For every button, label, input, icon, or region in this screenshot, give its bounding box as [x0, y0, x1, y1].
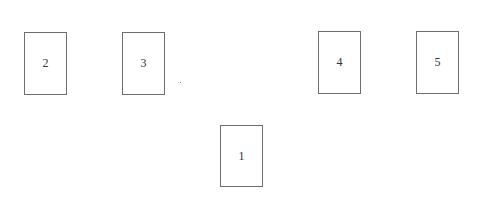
- card-label: 2: [43, 56, 49, 71]
- card-label: 1: [239, 149, 245, 164]
- card-5: 5: [416, 31, 459, 94]
- stray-dot: [180, 82, 181, 83]
- card-label: 3: [141, 56, 147, 71]
- card-label: 4: [337, 55, 343, 70]
- card-2: 2: [24, 32, 67, 95]
- card-label: 5: [435, 55, 441, 70]
- card-3: 3: [122, 32, 165, 95]
- card-4: 4: [318, 31, 361, 94]
- card-1: 1: [220, 125, 263, 187]
